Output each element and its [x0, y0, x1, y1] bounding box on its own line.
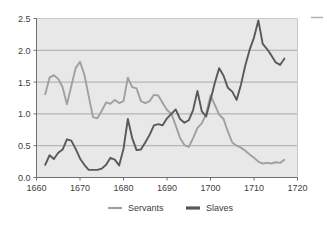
y-tick-label: 0.5	[18, 141, 31, 151]
x-tick-label: 1680	[113, 183, 133, 193]
y-tick-label: 0.0	[18, 173, 31, 183]
plot-area-background	[37, 19, 298, 178]
x-tick-label: 1670	[70, 183, 90, 193]
y-tick-label: 2.5	[18, 14, 31, 24]
y-tick-label: 1.0	[18, 109, 31, 119]
legend-label-servants: Servants	[128, 203, 164, 213]
x-tick-label: 1710	[244, 183, 264, 193]
x-tick-label: 1720	[287, 183, 307, 193]
line-chart: 1660167016801690170017101720 0.00.51.01.…	[0, 0, 327, 231]
y-tick-label: 1.5	[18, 78, 31, 88]
x-tick-label: 1700	[200, 183, 220, 193]
legend-label-slaves: Slaves	[206, 203, 234, 213]
y-tick-label: 2.0	[18, 46, 31, 56]
x-tick-label: 1690	[157, 183, 177, 193]
x-tick-label: 1660	[26, 183, 46, 193]
chart-container: 1660167016801690170017101720 0.00.51.01.…	[0, 0, 327, 231]
